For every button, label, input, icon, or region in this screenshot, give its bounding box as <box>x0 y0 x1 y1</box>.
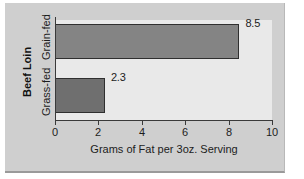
x-tick-label: 0 <box>52 126 58 138</box>
y-axis-title: Beef Loin <box>21 47 33 97</box>
x-axis-title: Grams of Fat per 3oz. Serving <box>55 143 273 155</box>
chart-figure: 8.5 2.3 0246810 Grain-fed Grass-fed Beef… <box>5 3 285 173</box>
category-label-grass-fed: Grass-fed <box>40 68 52 116</box>
x-tick-label: 2 <box>95 126 101 138</box>
x-axis-line <box>55 120 273 121</box>
category-label-grain-fed: Grain-fed <box>40 14 52 60</box>
x-tick-mark <box>272 121 273 125</box>
x-tick-label: 6 <box>182 126 188 138</box>
x-tick-label: 8 <box>226 126 232 138</box>
bar-grass-fed[interactable] <box>55 78 105 113</box>
bar-grain-fed[interactable] <box>55 24 239 59</box>
x-tick-label: 4 <box>139 126 145 138</box>
value-label-grain-fed: 8.5 <box>245 17 260 29</box>
plot-area <box>55 20 272 120</box>
y-axis-line <box>55 17 56 123</box>
x-tick-mark <box>142 121 143 125</box>
x-tick-mark <box>229 121 230 125</box>
x-tick-mark <box>98 121 99 125</box>
x-tick-label: 10 <box>266 126 278 138</box>
x-tick-mark <box>55 121 56 125</box>
value-label-grass-fed: 2.3 <box>111 71 126 83</box>
x-tick-mark <box>185 121 186 125</box>
